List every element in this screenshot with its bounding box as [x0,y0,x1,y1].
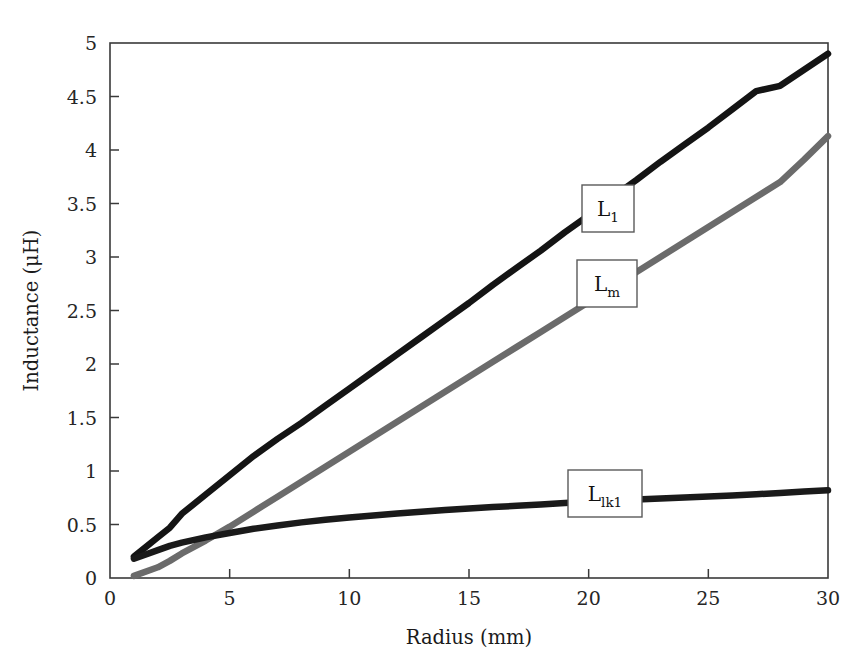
series-callouts: L1LmLlk1 [568,185,642,517]
y-tick-label: 4.5 [67,86,97,108]
callout-l-1: L1 [582,185,634,232]
y-axis-title: Inductance (μH) [20,230,43,392]
callout-l-lk1: Llk1 [568,470,642,517]
y-tick-label: 2.5 [67,300,97,322]
y-axis: 00.511.522.533.544.55 [67,32,119,589]
inductance-vs-radius-chart: 00.511.522.533.544.55051015202530Radius … [0,0,864,666]
y-tick-label: 5 [85,32,97,54]
y-tick-label: 3.5 [67,193,97,215]
chart-figure: 00.511.522.533.544.55051015202530Radius … [0,0,864,666]
y-tick-label: 4 [85,139,97,161]
x-tick-label: 0 [104,587,116,609]
x-tick-label: 15 [457,587,481,609]
y-tick-label: 3 [85,246,97,268]
y-tick-label: 1 [85,460,97,482]
x-tick-label: 10 [337,587,361,609]
y-tick-label: 1.5 [67,407,97,429]
series-line-l-1 [134,54,828,557]
y-tick-label: 0 [85,567,97,589]
callout-l-m: Lm [577,260,637,307]
x-tick-label: 5 [224,587,236,609]
x-tick-label: 25 [696,587,720,609]
y-tick-label: 0.5 [67,514,97,536]
series-group [134,54,828,576]
x-axis: 051015202530 [104,569,840,609]
y-tick-label: 2 [85,353,97,375]
x-axis-title: Radius (mm) [406,626,532,649]
x-tick-label: 20 [577,587,601,609]
x-tick-label: 30 [816,587,840,609]
